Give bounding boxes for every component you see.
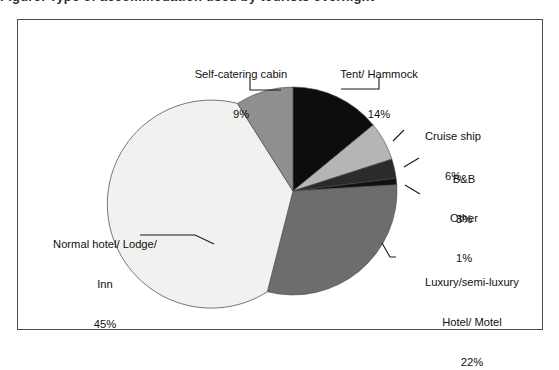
- label-bnb-name: B&B: [424, 173, 504, 186]
- leader-line-luxury: [382, 243, 396, 257]
- label-tent-hammock-name: Tent/ Hammock: [313, 68, 445, 81]
- label-self-catering-cabin-name: Self-catering cabin: [166, 68, 316, 81]
- label-normal-hotel-lodge-inn-pct: 45%: [25, 318, 185, 331]
- label-normal-hotel-lodge-inn-name2: Inn: [25, 278, 185, 291]
- label-luxury-hotel-motel: Luxury/semi-luxury Hotel/ Motel 22%: [398, 250, 546, 370]
- label-self-catering-cabin-pct: 9%: [166, 108, 316, 121]
- label-cruise-ship-name: Cruise ship: [398, 130, 508, 143]
- label-luxury-hotel-motel-pct: 22%: [398, 356, 546, 369]
- label-normal-hotel-lodge-inn-name: Normal hotel/ Lodge/: [25, 238, 185, 251]
- label-self-catering-cabin: Self-catering cabin 9%: [166, 42, 316, 148]
- label-luxury-hotel-motel-name2: Hotel/ Motel: [398, 316, 546, 329]
- label-luxury-hotel-motel-name: Luxury/semi-luxury: [398, 276, 546, 289]
- label-normal-hotel-lodge-inn: Normal hotel/ Lodge/ Inn 45%: [25, 212, 185, 357]
- label-other-name: Other: [424, 212, 504, 225]
